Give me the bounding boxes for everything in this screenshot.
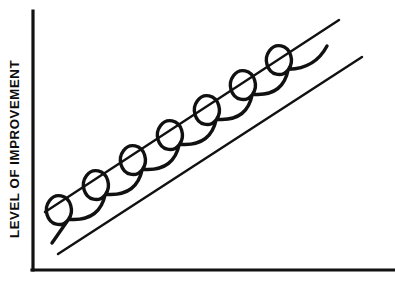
diagram-svg: LEVEL OF IMPROVEMENT <box>0 0 395 286</box>
y-axis-label: LEVEL OF IMPROVEMENT <box>7 60 22 238</box>
figure-canvas: LEVEL OF IMPROVEMENT <box>0 0 395 286</box>
